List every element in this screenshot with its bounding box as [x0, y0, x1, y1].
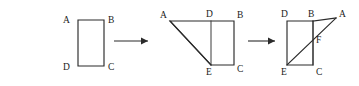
diagonal-ea-through-f [287, 18, 336, 65]
arrow-1-head [141, 38, 148, 45]
vertex-label-d-step2: D [206, 9, 213, 19]
vertex-label-b-step3: B [308, 9, 314, 19]
rectangle-abcd-outline [78, 20, 104, 66]
vertex-label-e-step3: E [281, 67, 287, 77]
vertex-label-c-step3: C [316, 67, 322, 77]
vertex-label-d-step1: D [63, 62, 70, 72]
vertex-label-e-step2: E [206, 67, 212, 77]
vertex-label-b-step1: B [108, 15, 114, 25]
vertex-label-a-step2: A [160, 10, 167, 20]
rectangle-dbce-outline [287, 21, 313, 65]
transform-arrow-1 [114, 38, 148, 45]
trapezoid-outline [170, 21, 234, 65]
vertex-label-d-step3: D [281, 9, 288, 19]
geometry-diagram-root: A B C D A D B E C [0, 0, 359, 86]
vertex-label-b-step2: B [237, 10, 243, 20]
figure-step-3: D B A F E C [281, 9, 346, 77]
figure-step-2: A D B E C [160, 9, 243, 77]
transform-arrow-2 [248, 38, 275, 45]
vertex-label-c-step1: C [108, 62, 114, 72]
vertex-label-a-step3: A [339, 9, 346, 19]
figure-step-1: A B C D [63, 15, 114, 72]
vertex-label-a-step1: A [63, 15, 70, 25]
arrow-2-head [268, 38, 275, 45]
vertex-label-f-step3: F [316, 35, 321, 45]
geometry-diagram-canvas: A B C D A D B E C [0, 0, 359, 86]
vertex-label-c-step2: C [237, 64, 243, 74]
edge-ea-step2 [170, 21, 211, 65]
